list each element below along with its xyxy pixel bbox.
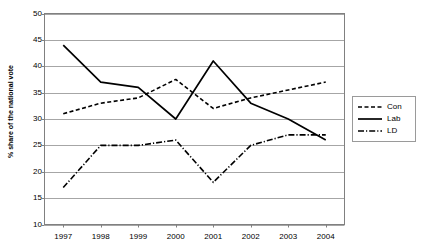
legend-swatch-con	[357, 102, 383, 112]
legend: ConLabLD	[352, 96, 416, 142]
x-tick-label: 2001	[193, 233, 233, 241]
x-tick-label: 2003	[268, 233, 308, 241]
x-tick-label: 1998	[81, 233, 121, 241]
legend-swatch-lab	[357, 114, 383, 124]
x-tick-label: 1997	[43, 233, 83, 241]
legend-label-lab: Lab	[387, 115, 400, 123]
legend-item-lab[interactable]: Lab	[357, 113, 410, 125]
legend-item-ld[interactable]: LD	[357, 125, 410, 137]
x-tick-label: 2002	[231, 233, 271, 241]
legend-label-con: Con	[387, 103, 402, 111]
legend-label-ld: LD	[387, 127, 397, 135]
x-tick-label: 1999	[118, 233, 158, 241]
x-tick-label: 2000	[156, 233, 196, 241]
line-chart: % share of the national vote 10152025303…	[0, 0, 421, 251]
legend-item-con[interactable]: Con	[357, 101, 410, 113]
x-tick-label: 2004	[306, 233, 346, 241]
legend-swatch-ld	[357, 126, 383, 136]
